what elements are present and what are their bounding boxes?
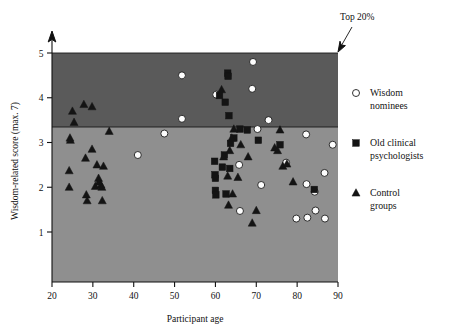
data-point: [258, 182, 265, 189]
top20-arrowhead: [338, 41, 345, 52]
data-point: [178, 115, 185, 122]
y-axis-ticks: 12345: [39, 49, 52, 238]
x-tick-label-90: 90: [333, 291, 343, 301]
legend-label-line1: Old clinical: [370, 137, 416, 148]
chart-canvas: 2030405060708090 12345 Participant age W…: [0, 0, 457, 336]
legend-label-line1: Control: [370, 187, 400, 198]
legend: WisdomnomineesOld clinicalpsychologistsC…: [352, 87, 424, 211]
legend-marker-triangle-icon: [352, 189, 360, 196]
data-point: [303, 131, 310, 138]
data-point: [134, 152, 141, 159]
top-20-percent-band: [52, 53, 338, 127]
data-point: [255, 137, 262, 144]
x-tick-label-80: 80: [292, 291, 302, 301]
data-point: [293, 215, 300, 222]
data-point: [254, 126, 261, 133]
data-point: [312, 207, 319, 214]
top20-annotation: Top 20%: [338, 12, 375, 52]
x-tick-label-60: 60: [211, 291, 221, 301]
data-point: [225, 73, 232, 80]
data-point: [226, 165, 233, 172]
y-tick-label-5: 5: [39, 49, 44, 59]
data-point: [222, 99, 229, 106]
y-tick-label-1: 1: [39, 228, 44, 238]
data-point: [213, 192, 220, 199]
data-point: [329, 141, 336, 148]
data-point: [321, 215, 328, 222]
data-point: [321, 169, 328, 176]
data-point: [161, 130, 168, 137]
y-axis-title: Wisdom-related score (max. 7): [10, 102, 21, 220]
y-tick-label-3: 3: [39, 138, 44, 148]
data-point: [178, 72, 185, 79]
data-point: [236, 207, 243, 214]
x-tick-label-30: 30: [88, 291, 98, 301]
top20-label: Top 20%: [340, 12, 375, 22]
x-tick-label-50: 50: [170, 291, 180, 301]
legend-marker-circle-icon: [353, 90, 360, 97]
data-point: [244, 127, 251, 134]
x-tick-label-40: 40: [129, 291, 139, 301]
x-tick-label-70: 70: [252, 291, 262, 301]
data-point: [249, 85, 256, 92]
data-point: [303, 181, 310, 188]
legend-item-1[interactable]: Old clinicalpsychologists: [353, 137, 424, 161]
x-tick-label-20: 20: [47, 291, 57, 301]
data-point: [304, 214, 311, 221]
data-point: [311, 186, 318, 193]
data-point: [216, 92, 223, 99]
data-point: [265, 117, 272, 124]
data-point: [212, 175, 219, 182]
data-point: [223, 191, 230, 198]
y-tick-label-4: 4: [39, 93, 44, 103]
data-point: [250, 58, 257, 65]
legend-marker-square-icon: [353, 140, 360, 147]
legend-label-line1: Wisdom: [370, 87, 403, 98]
x-axis-title: Participant age: [167, 314, 224, 324]
x-axis-ticks: 2030405060708090: [47, 282, 343, 301]
data-point: [211, 158, 218, 165]
data-point: [226, 112, 233, 119]
legend-item-2[interactable]: Controlgroups: [352, 187, 400, 211]
legend-label-line2: groups: [370, 200, 397, 211]
data-point: [236, 161, 243, 168]
legend-item-0[interactable]: Wisdomnominees: [353, 87, 408, 111]
y-tick-label-2: 2: [39, 183, 44, 193]
legend-label-line2: nominees: [370, 100, 408, 111]
legend-label-line2: psychologists: [370, 150, 424, 161]
wisdom-score-scatter-figure: 2030405060708090 12345 Participant age W…: [0, 0, 457, 336]
data-point: [219, 164, 226, 171]
